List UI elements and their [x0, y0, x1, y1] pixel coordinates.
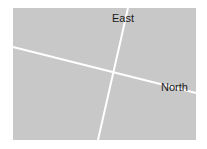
east-label: East	[112, 13, 134, 24]
north-label: North	[161, 82, 188, 93]
axes-lines	[0, 0, 207, 149]
